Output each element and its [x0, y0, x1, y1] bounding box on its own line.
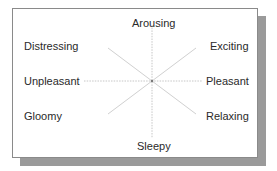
label-arousing: Arousing	[132, 17, 175, 30]
center-point	[151, 80, 153, 82]
label-exciting: Exciting	[210, 40, 249, 53]
label-distressing: Distressing	[24, 40, 78, 53]
label-pleasant: Pleasant	[206, 75, 249, 88]
label-gloomy: Gloomy	[24, 110, 62, 123]
label-sleepy: Sleepy	[137, 140, 171, 153]
label-unpleasant: Unpleasant	[24, 75, 80, 88]
label-relaxing: Relaxing	[206, 110, 249, 123]
